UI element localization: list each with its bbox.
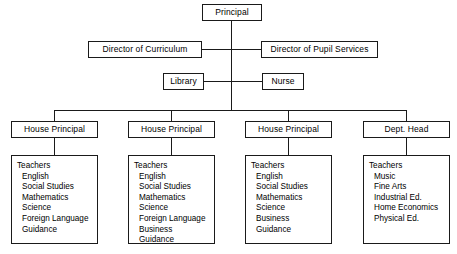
staff-list-item: Social Studies xyxy=(134,182,214,193)
node-director-of-curriculum[interactable]: Director of Curriculum xyxy=(88,41,202,58)
connector-drop-house-3 xyxy=(288,110,289,121)
connector-house-2-to-staff xyxy=(171,137,172,155)
staff-list-item: English xyxy=(251,172,331,183)
node-library[interactable]: Library xyxy=(163,73,204,90)
connector-drop-dept-head xyxy=(406,110,407,121)
org-chart-diagram: Principal Director of Curriculum Directo… xyxy=(0,0,457,254)
staff-list-item: Social Studies xyxy=(251,182,331,193)
node-house-principal-2-label: House Principal xyxy=(141,125,202,134)
node-house-principal-1-label: House Principal xyxy=(24,125,85,134)
staff-list-item: Music xyxy=(369,172,449,183)
staff-list-house-1: Teachers English Social Studies Mathemat… xyxy=(11,155,98,244)
connector-dept-head-to-staff xyxy=(406,137,407,155)
staff-list-item: Science xyxy=(251,203,331,214)
staff-list-item: Guidance xyxy=(251,225,331,236)
connector-bus xyxy=(54,110,407,111)
node-director-of-curriculum-label: Director of Curriculum xyxy=(103,45,188,54)
staff-list-item: Guidance xyxy=(134,235,214,244)
connector-nurse xyxy=(231,81,262,82)
connector-drop-house-2 xyxy=(171,110,172,121)
node-house-principal-3-label: House Principal xyxy=(258,125,319,134)
node-principal[interactable]: Principal xyxy=(202,4,262,21)
node-house-principal-1[interactable]: House Principal xyxy=(11,121,98,138)
node-director-of-pupil-services[interactable]: Director of Pupil Services xyxy=(261,41,378,58)
node-library-label: Library xyxy=(170,77,197,86)
staff-list-item: Foreign Language xyxy=(17,214,97,225)
connector-drop-house-1 xyxy=(54,110,55,121)
staff-list-item: Industrial Ed. xyxy=(369,193,449,204)
staff-list-item: Mathematics xyxy=(17,193,97,204)
staff-list-heading: Teachers xyxy=(369,161,449,172)
node-house-principal-2[interactable]: House Principal xyxy=(128,121,215,138)
node-dept-head[interactable]: Dept. Head xyxy=(363,121,450,138)
staff-list-item: Foreign Language xyxy=(134,214,214,225)
staff-list-item: Business xyxy=(251,214,331,225)
node-dept-head-label: Dept. Head xyxy=(385,125,429,134)
staff-list-dept-head: Teachers Music Fine Arts Industrial Ed. … xyxy=(363,155,450,244)
staff-list-house-2: Teachers English Social Studies Mathemat… xyxy=(128,155,215,244)
staff-list-heading: Teachers xyxy=(17,161,97,172)
node-nurse[interactable]: Nurse xyxy=(262,73,304,90)
staff-list-item: Mathematics xyxy=(134,193,214,204)
connector-director-pupil-services xyxy=(231,49,262,50)
staff-list-item: Guidance xyxy=(17,225,97,236)
staff-list-item: Science xyxy=(17,203,97,214)
staff-list-item: Home Economics xyxy=(369,203,449,214)
staff-list-item: Social Studies xyxy=(17,182,97,193)
connector-library xyxy=(203,81,232,82)
connector-house-3-to-staff xyxy=(288,137,289,155)
staff-list-house-3: Teachers English Social Studies Mathemat… xyxy=(245,155,332,244)
staff-list-item: Science xyxy=(134,203,214,214)
connector-spine-principal xyxy=(231,20,232,111)
staff-list-item: Mathematics xyxy=(251,193,331,204)
staff-list-item: English xyxy=(17,172,97,183)
staff-list-heading: Teachers xyxy=(134,161,214,172)
staff-list-item: English xyxy=(134,172,214,183)
staff-list-heading: Teachers xyxy=(251,161,331,172)
node-nurse-label: Nurse xyxy=(271,77,294,86)
staff-list-item: Business xyxy=(134,225,214,236)
connector-house-1-to-staff xyxy=(54,137,55,155)
node-principal-label: Principal xyxy=(215,8,249,17)
staff-list-item: Physical Ed. xyxy=(369,214,449,225)
node-director-of-pupil-services-label: Director of Pupil Services xyxy=(270,45,368,54)
staff-list-item: Fine Arts xyxy=(369,182,449,193)
node-house-principal-3[interactable]: House Principal xyxy=(245,121,332,138)
connector-director-curriculum xyxy=(202,49,232,50)
